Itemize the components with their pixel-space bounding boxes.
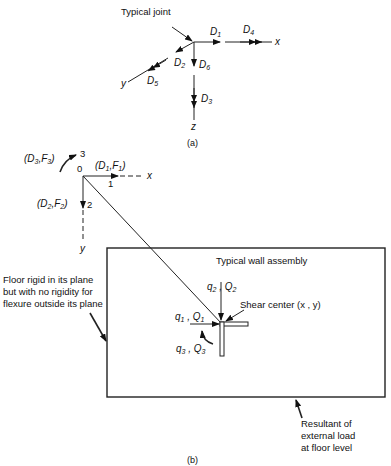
d5-double-arrow-icon [148, 60, 166, 71]
dir3-number: 3 [80, 148, 85, 159]
shear-center-label: Shear center (x , y) [240, 299, 321, 310]
y-axis-label: y [120, 78, 127, 89]
dir1-label: (D1,F1) [95, 160, 126, 172]
z-axis-label: z [190, 121, 196, 132]
resultant-arrow-icon [296, 400, 302, 418]
q3-label: q3 , Q3 [176, 343, 206, 355]
structural-diagram: Typical joint x D1 D4 y D2 D5 z D6 D3 (a… [0, 0, 391, 466]
caption-b: (b) [187, 455, 198, 465]
origin-label: 0 [77, 163, 82, 174]
part-b-floor-diagram: 0 x 1 (D1,F1) y 2 (D2,F2) 3 (D3,F3) Typi… [3, 148, 385, 465]
part-a-joint-diagram: Typical joint x D1 D4 y D2 D5 z D6 D3 (a… [120, 6, 281, 148]
d2-label: D2 [174, 57, 185, 69]
d6-label: D6 [199, 59, 210, 71]
q3-rotation-arrow-icon [202, 331, 213, 344]
wall-assembly-section [220, 322, 248, 356]
shear-center-pointer-icon [226, 310, 244, 321]
x-axis-label: x [274, 36, 281, 47]
dir3-label: (D3,F3) [24, 153, 55, 165]
origin-to-shear-center-line [83, 176, 222, 324]
caption-a: (a) [187, 138, 198, 148]
d5-label: D5 [147, 75, 158, 87]
resultant-note-line-3: at floor level [301, 442, 352, 453]
floor-note-line-2: but with no rigidity for [3, 286, 93, 297]
wall-assembly-title: Typical wall assembly [216, 255, 308, 266]
d4-label: D4 [243, 24, 254, 36]
dir2-number: 2 [87, 199, 92, 210]
q1-label: q1 , Q1 [175, 311, 205, 323]
floor-note-line-3: flexure outside its plane [3, 298, 103, 309]
dir2-label: (D2,F2) [37, 198, 68, 210]
typical-joint-label: Typical joint [121, 6, 171, 17]
q2-label: q2 , Q2 [207, 281, 237, 293]
joint-callout-arrow-icon [172, 27, 192, 41]
dir1-number: 1 [108, 178, 113, 189]
b-y-axis-label: y [79, 243, 86, 254]
b-x-axis-label: x [146, 170, 153, 181]
d2-arrow-icon [176, 42, 194, 52]
d3-label: D3 [201, 93, 212, 105]
dir3-rotation-arrow-icon [60, 155, 76, 172]
d1-label: D1 [210, 26, 221, 38]
resultant-note-line-1: Resultant of [301, 418, 352, 429]
resultant-note-line-2: external load [301, 430, 355, 441]
floor-note-arrow-icon [90, 313, 106, 341]
floor-note-line-1: Floor rigid in its plane [3, 274, 93, 285]
